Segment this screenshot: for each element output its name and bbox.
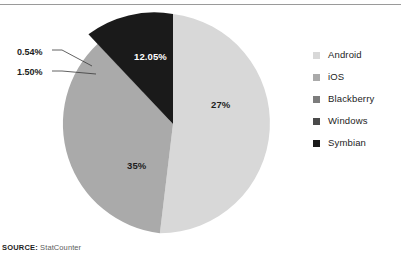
legend-item-windows[interactable]: Windows xyxy=(313,110,401,132)
source-note: SOURCE: StatCounter xyxy=(2,243,81,252)
legend-label: Symbian xyxy=(328,138,366,148)
slice-value-symbian: 12.05% xyxy=(134,51,167,62)
legend-swatch-icon xyxy=(313,74,320,81)
legend-swatch-icon xyxy=(313,140,320,147)
slice-value-android: 27% xyxy=(211,99,230,110)
legend-item-android[interactable]: Android xyxy=(313,44,401,66)
callout-value-windows: 1.50% xyxy=(17,67,43,77)
pie-slice-android xyxy=(160,14,270,233)
callout-value-blackberry: 0.54% xyxy=(17,47,43,57)
source-label: SOURCE: xyxy=(2,243,38,252)
legend-item-ios[interactable]: iOS xyxy=(313,66,401,88)
source-value: StatCounter xyxy=(40,243,81,252)
legend-label: Blackberry xyxy=(328,94,374,104)
legend-item-blackberry[interactable]: Blackberry xyxy=(313,88,401,110)
pie-chart-figure: 27% 35% 12.05% 1.50% 0.54% Android iOS B… xyxy=(0,0,401,254)
slice-value-ios: 35% xyxy=(127,160,146,171)
legend-swatch-icon xyxy=(313,96,320,103)
legend: Android iOS Blackberry Windows Symbian xyxy=(313,44,401,154)
pie-slices xyxy=(63,12,270,233)
legend-swatch-icon xyxy=(313,118,320,125)
legend-label: Windows xyxy=(328,116,368,126)
legend-label: iOS xyxy=(328,72,344,82)
legend-item-symbian[interactable]: Symbian xyxy=(313,132,401,154)
legend-label: Android xyxy=(328,50,362,60)
legend-swatch-icon xyxy=(313,52,320,59)
